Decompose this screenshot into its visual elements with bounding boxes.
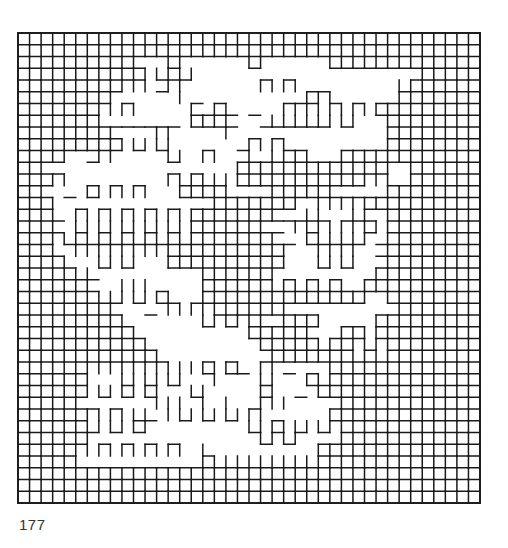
grid-lines: [18, 33, 480, 503]
eroded-grid-artwork: [0, 0, 508, 548]
plate-number: 177: [19, 516, 46, 533]
